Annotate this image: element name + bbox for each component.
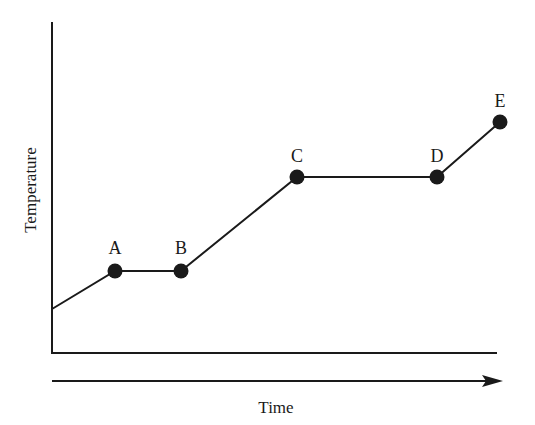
point-e <box>493 115 508 130</box>
heating-curve-chart: A B C D E Temperature Time <box>0 0 535 425</box>
x-axis-title: Time <box>258 398 293 417</box>
label-d: D <box>431 146 444 166</box>
time-arrow <box>52 375 503 387</box>
point-a <box>108 264 123 279</box>
point-c <box>290 170 305 185</box>
label-c: C <box>291 146 303 166</box>
point-d <box>430 170 445 185</box>
label-a: A <box>109 238 122 258</box>
label-b: B <box>175 238 187 258</box>
label-e: E <box>495 91 506 111</box>
y-axis-title: Temperature <box>21 147 40 233</box>
point-b <box>174 264 189 279</box>
